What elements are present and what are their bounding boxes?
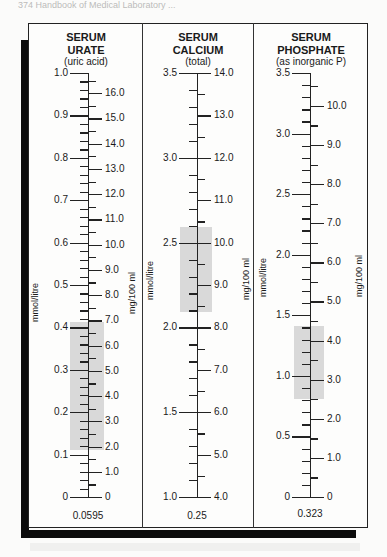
left-tick: [80, 336, 88, 337]
left-tick: [80, 463, 88, 464]
right-tick: [197, 327, 211, 328]
right-tick: [310, 360, 318, 361]
right-tick: [197, 243, 211, 244]
left-tick: [80, 344, 88, 345]
left-tick-label: 0.8: [38, 153, 68, 163]
left-tick: [189, 361, 197, 362]
left-tick: [302, 279, 310, 280]
left-tick: [302, 158, 310, 159]
right-tick-label: 11.0: [105, 214, 124, 224]
left-tick: [302, 485, 310, 486]
left-tick: [80, 480, 88, 481]
left-tick: [302, 291, 310, 292]
left-tick: [189, 175, 197, 176]
left-tick: [189, 480, 197, 481]
right-tick-label: 12.0: [105, 189, 124, 199]
right-tick-label: 7.0: [105, 315, 119, 325]
right-tick-label: 3.0: [327, 375, 341, 385]
right-tick: [88, 459, 96, 460]
left-tick: [80, 90, 88, 91]
left-tick: [189, 310, 197, 311]
right-tick-label: 15.0: [105, 113, 124, 123]
left-tick: [80, 319, 88, 320]
left-tick: [302, 327, 310, 328]
right-tick-label: 10.0: [214, 238, 233, 248]
left-tick: [302, 218, 310, 219]
right-tick: [88, 156, 96, 157]
right-tick: [88, 396, 102, 397]
right-tick-label: 4.0: [214, 492, 228, 502]
left-tick: [292, 436, 310, 437]
left-tick-label: 0.5: [38, 280, 68, 290]
right-tick: [88, 358, 96, 359]
right-tick: [310, 184, 324, 185]
right-tick: [310, 282, 318, 283]
right-tick: [88, 219, 102, 220]
left-tick: [302, 206, 310, 207]
left-tick-label: 0.7: [38, 195, 68, 205]
right-tick: [197, 412, 211, 413]
left-tick: [70, 115, 88, 116]
left-tick: [70, 370, 88, 371]
left-tick: [80, 268, 88, 269]
right-tick: [310, 243, 318, 244]
page-header: 374 Handbook of Medical Laboratory ...: [18, 0, 176, 10]
left-tick-label: 0: [260, 492, 290, 502]
right-tick: [88, 333, 96, 334]
right-tick: [197, 370, 211, 371]
right-tick: [197, 158, 211, 159]
right-tick: [310, 262, 324, 263]
right-tick: [88, 320, 102, 321]
left-tick: [80, 149, 88, 150]
right-tick: [88, 484, 96, 485]
right-tick-label: 0: [105, 492, 111, 502]
right-tick-label: 14.0: [214, 68, 233, 78]
left-tick: [292, 315, 310, 316]
left-tick: [302, 230, 310, 231]
calcium-reference-band: [180, 227, 212, 312]
left-tick: [189, 446, 197, 447]
left-tick: [292, 376, 310, 377]
right-tick: [88, 245, 102, 246]
right-tick: [310, 341, 324, 342]
left-tick: [302, 97, 310, 98]
left-tick: [179, 158, 197, 159]
right-tick-label: 9.0: [214, 280, 228, 290]
left-tick: [302, 461, 310, 462]
right-tick: [88, 371, 102, 372]
left-tick-label: 3.0: [260, 129, 290, 139]
left-tick: [80, 293, 88, 294]
right-tick-label: 7.0: [327, 218, 341, 228]
urate-right-unit: mg/100 ml: [127, 272, 137, 314]
left-tick: [179, 243, 197, 244]
right-tick: [88, 282, 96, 283]
right-tick-label: 5.0: [105, 366, 119, 376]
left-tick: [189, 209, 197, 210]
right-tick-label: 3.0: [105, 416, 119, 426]
left-tick-label: 1.0: [260, 371, 290, 381]
right-tick: [197, 73, 211, 74]
urate-factor: 0.0595: [58, 510, 118, 521]
column-divider: [142, 23, 143, 528]
right-tick: [310, 204, 318, 205]
column-divider: [253, 23, 254, 528]
right-tick: [310, 419, 324, 420]
right-tick: [88, 93, 102, 94]
left-tick: [80, 260, 88, 261]
left-tick-label: 1.5: [260, 310, 290, 320]
right-tick: [88, 131, 96, 132]
left-tick: [70, 455, 88, 456]
left-tick: [80, 209, 88, 210]
frame-shadow-bottom: [21, 530, 356, 538]
right-tick: [310, 497, 324, 498]
left-tick-label: 0.9: [38, 110, 68, 120]
left-tick-label: 1.5: [147, 407, 177, 417]
left-tick: [80, 226, 88, 227]
left-tick: [189, 124, 197, 125]
left-tick: [302, 473, 310, 474]
right-tick-label: 1.0: [105, 467, 119, 477]
left-tick: [302, 364, 310, 365]
right-tick: [88, 447, 102, 448]
left-tick-label: 0.2: [38, 407, 68, 417]
right-tick: [88, 270, 102, 271]
